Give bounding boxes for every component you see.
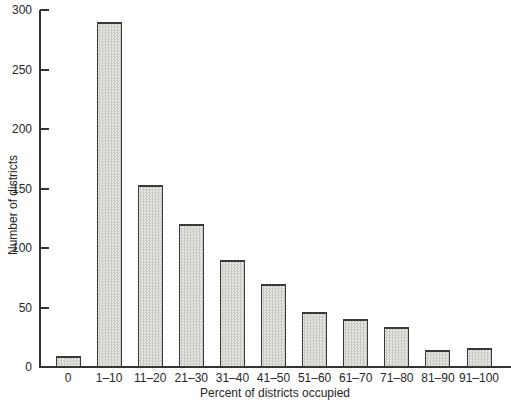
y-tick-mark <box>40 366 49 368</box>
y-tick-mark <box>40 128 49 130</box>
y-tick-label: 50 <box>0 301 32 315</box>
x-tick-label: 91–100 <box>447 371 511 385</box>
bar-0 <box>56 356 81 367</box>
y-tick-label: 300 <box>0 3 32 17</box>
bar-chart-figure: Number of districts 050100150200250300 0… <box>0 0 511 408</box>
y-tick-mark <box>40 69 49 71</box>
y-tick-mark <box>40 307 49 309</box>
y-tick-label: 100 <box>0 241 32 255</box>
y-axis-title: Number of districts <box>6 155 20 255</box>
y-tick-label: 200 <box>0 122 32 136</box>
bar-81–90 <box>425 350 450 367</box>
y-tick-mark <box>40 247 49 249</box>
bar-71–80 <box>384 327 409 367</box>
bar-61–70 <box>343 319 368 367</box>
y-tick-label: 0 <box>0 360 32 374</box>
bar-51–60 <box>302 312 327 367</box>
bar-31–40 <box>220 260 245 367</box>
bar-1–10 <box>97 22 122 367</box>
y-tick-label: 150 <box>0 182 32 196</box>
bar-21–30 <box>179 224 204 367</box>
bar-91–100 <box>467 348 492 367</box>
bar-41–50 <box>261 284 286 367</box>
y-tick-label: 250 <box>0 63 32 77</box>
y-tick-mark <box>40 188 49 190</box>
x-axis-title: Percent of districts occupied <box>160 386 390 400</box>
y-tick-mark <box>40 9 49 11</box>
bar-11–20 <box>138 185 163 367</box>
